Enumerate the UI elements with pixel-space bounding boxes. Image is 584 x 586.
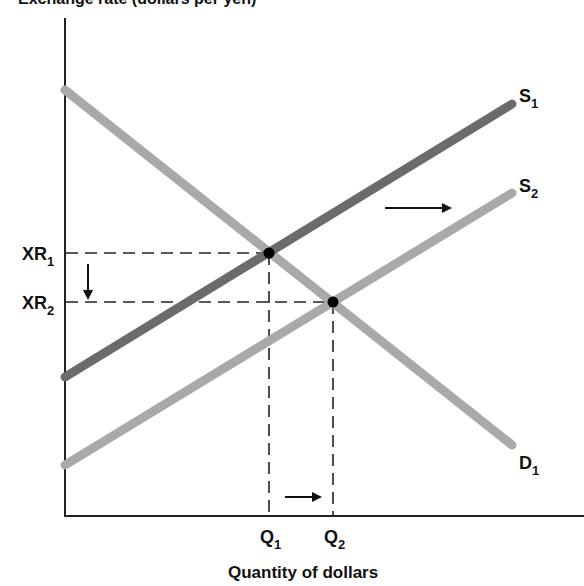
q1-label: Q1 — [260, 527, 281, 552]
equilibrium-point-1 — [264, 248, 275, 259]
xr1-label: XR1 — [22, 244, 54, 269]
d1-label: D1 — [519, 453, 539, 478]
equilibrium-point-2 — [328, 297, 339, 308]
s1-label: S1 — [519, 86, 538, 111]
q2-label: Q2 — [324, 527, 345, 552]
exchange-rate-chart: Exchange rate (dollars per yen) XR1 XR2 … — [0, 0, 584, 586]
y-axis-label: Exchange rate (dollars per yen) — [18, 0, 256, 7]
s2-label: S2 — [519, 176, 538, 201]
supply-curve-s2 — [65, 193, 512, 465]
x-axis-label: Quantity of dollars — [228, 563, 378, 582]
xr2-label: XR2 — [22, 293, 54, 318]
